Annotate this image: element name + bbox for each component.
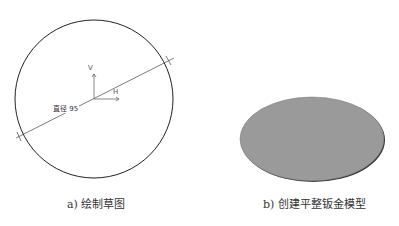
diameter-dimension-label: 直径 95 (52, 103, 79, 113)
diagram-canvas (0, 0, 399, 226)
axis-v-label: V (88, 64, 93, 72)
diameter-tick-left (17, 132, 21, 141)
axis-h-label: H (113, 88, 118, 96)
sketch-figure (15, 20, 174, 178)
sheetmetal-plate (240, 97, 384, 181)
sheetmetal-figure (240, 97, 385, 182)
caption-a: a) 绘制草图 (67, 195, 125, 211)
caption-b: b) 创建平整钣金模型 (263, 195, 366, 211)
diameter-tick-right (166, 56, 171, 65)
diameter-line (16, 58, 174, 138)
